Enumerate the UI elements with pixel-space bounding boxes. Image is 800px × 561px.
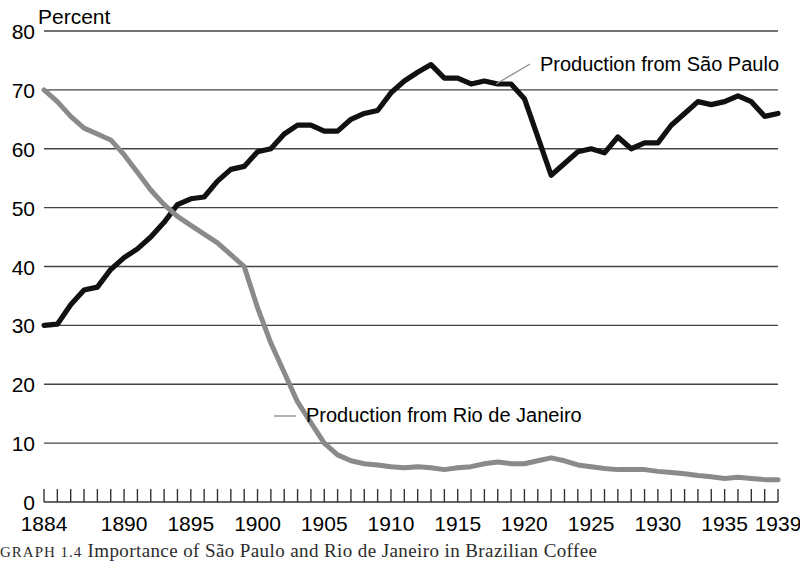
- x-tick-label: 1920: [501, 512, 548, 535]
- x-tick-label: 1935: [701, 512, 748, 535]
- x-tick-label: 1930: [635, 512, 682, 535]
- x-tick-label: 1884: [21, 512, 68, 535]
- x-axis-tick-labels: 1884189018951900190519101915192019251930…: [21, 512, 800, 535]
- x-tick-label: 1910: [368, 512, 415, 535]
- line-chart: 01020304050607080 1884189018951900190519…: [0, 0, 800, 540]
- y-tick-label: 0: [23, 491, 35, 514]
- series-label: Production from Rio de Janeiro: [306, 404, 582, 426]
- annotation-leader-line: [496, 64, 530, 84]
- x-tick-label: 1905: [301, 512, 348, 535]
- y-tick-label: 40: [12, 256, 35, 279]
- series-label: Production from São Paulo: [540, 53, 779, 75]
- x-tick-label: 1895: [167, 512, 214, 535]
- caption-label: GRAPH 1.4: [0, 544, 82, 560]
- y-tick-label: 20: [12, 373, 35, 396]
- y-tick-label: 50: [12, 197, 35, 220]
- caption-text: Importance of São Paulo and Rio de Janei…: [88, 540, 598, 561]
- x-tick-label: 1925: [568, 512, 615, 535]
- y-axis-tick-labels: 01020304050607080: [12, 20, 35, 514]
- figure-caption: GRAPH 1.4 Importance of São Paulo and Ri…: [0, 540, 800, 561]
- y-tick-label: 10: [12, 432, 35, 455]
- gridlines: [44, 31, 778, 502]
- x-tick-label: 1900: [234, 512, 281, 535]
- x-tick-label: 1915: [434, 512, 481, 535]
- y-tick-label: 30: [12, 314, 35, 337]
- x-tick-label: 1939: [755, 512, 800, 535]
- figure-container: 01020304050607080 1884189018951900190519…: [0, 0, 800, 561]
- y-tick-label: 70: [12, 79, 35, 102]
- y-axis-title: Percent: [38, 5, 111, 28]
- x-tick-label: 1890: [101, 512, 148, 535]
- x-axis-ticks: [44, 489, 778, 502]
- y-tick-label: 80: [12, 20, 35, 43]
- y-tick-label: 60: [12, 138, 35, 161]
